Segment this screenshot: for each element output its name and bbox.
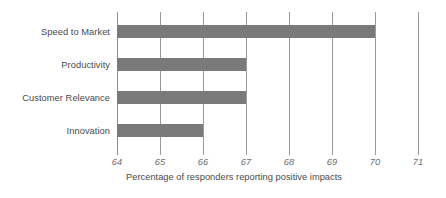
tick-label-70: 70 xyxy=(360,157,390,168)
bar-productivity xyxy=(117,58,246,71)
x-axis-tick-labels: 64 65 66 67 68 69 70 71 xyxy=(117,157,418,171)
category-label-innovation: Innovation xyxy=(0,126,110,136)
category-label-productivity: Productivity xyxy=(0,60,110,70)
tick-label-69: 69 xyxy=(317,157,347,168)
tick-label-64: 64 xyxy=(102,157,132,168)
x-axis-title-text: Percentage of responders reporting posit… xyxy=(126,172,342,182)
category-label-customer-relevance: Customer Relevance xyxy=(0,93,110,103)
category-axis-labels: Speed to Market Productivity Customer Re… xyxy=(0,12,115,155)
tick-label-67: 67 xyxy=(231,157,261,168)
gridline-70 xyxy=(375,12,376,155)
category-label-speed-to-market: Speed to Market xyxy=(0,27,110,37)
tick-label-68: 68 xyxy=(274,157,304,168)
tick-label-71: 71 xyxy=(403,157,433,168)
plot-area xyxy=(117,12,418,155)
x-axis-title: Percentage of responders reporting posit… xyxy=(0,172,446,182)
bar-customer-relevance xyxy=(117,91,246,104)
gridline-71 xyxy=(418,12,419,155)
bar-speed-to-market xyxy=(117,25,375,38)
tick-label-66: 66 xyxy=(188,157,218,168)
bar-chart: Speed to Market Productivity Customer Re… xyxy=(0,0,446,198)
bar-innovation xyxy=(117,124,203,137)
tick-label-65: 65 xyxy=(145,157,175,168)
